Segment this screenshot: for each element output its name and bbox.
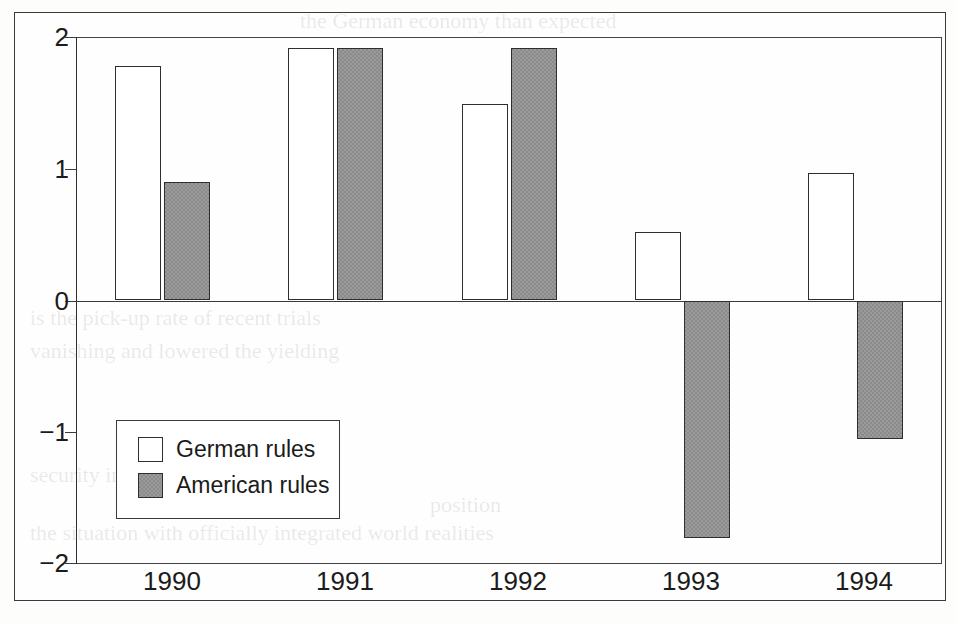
legend-swatch-american-icon	[138, 473, 163, 498]
y-axis-label: −1	[39, 419, 69, 445]
plot-top-border	[76, 37, 942, 38]
plot-bottom-border	[76, 563, 942, 564]
y-axis-label: 2	[55, 24, 69, 50]
chart-legend: German rules American rules	[116, 420, 340, 519]
bar-1990-american	[164, 182, 210, 301]
legend-label-american: American rules	[176, 474, 329, 497]
y-axis-label: 1	[55, 156, 69, 182]
legend-swatch-german-icon	[138, 437, 163, 462]
x-axis-label-1991: 1991	[316, 568, 374, 594]
bar-1991-american	[337, 48, 383, 301]
legend-item-german: German rules	[138, 437, 315, 462]
bar-1991-german	[288, 48, 334, 301]
x-axis-label-1992: 1992	[489, 568, 547, 594]
x-axis-label-1994: 1994	[835, 568, 893, 594]
y-axis-label: 0	[55, 288, 69, 314]
bar-1994-american	[857, 301, 903, 439]
bar-1990-german	[115, 66, 161, 301]
chart-figure: the German economy than expected is the …	[0, 0, 956, 624]
x-axis-label-1990: 1990	[143, 568, 201, 594]
x-axis-label-1993: 1993	[662, 568, 720, 594]
bar-1993-american	[684, 301, 730, 538]
legend-label-german: German rules	[176, 438, 315, 461]
bar-1992-american	[511, 48, 557, 301]
x-axis-labels: 1990 1991 1992 1993 1994	[76, 568, 942, 608]
y-axis-label: −2	[39, 550, 69, 576]
bar-1992-german	[462, 104, 508, 300]
legend-item-american: American rules	[138, 473, 329, 498]
zero-baseline	[76, 301, 942, 302]
bar-1994-german	[808, 173, 854, 301]
bar-1993-german	[635, 232, 681, 301]
